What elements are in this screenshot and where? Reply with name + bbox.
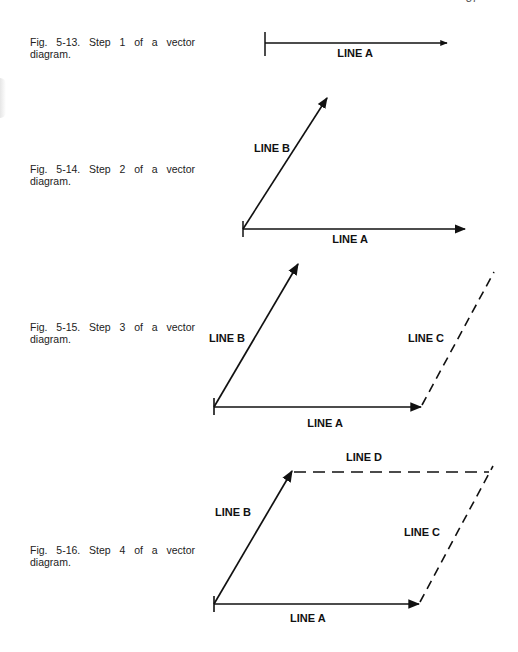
line-c-label: LINE C [404, 526, 440, 538]
line-a-label: LINE A [290, 612, 326, 624]
line-a-label: LINE A [307, 417, 343, 429]
diagram-fig-5-15: LINE B LINE C LINE A [209, 264, 494, 429]
line-b-label: LINE B [215, 506, 251, 518]
vector-diagrams: LINE A LINE B LINE A LINE B LINE C LINE … [0, 0, 518, 652]
diagram-fig-5-16: LINE D LINE B LINE C LINE A [214, 451, 493, 624]
line-b-label: LINE B [254, 142, 290, 154]
line-b-label: LINE B [209, 332, 245, 344]
diagram-fig-5-14: LINE B LINE A [243, 98, 465, 245]
line-b-vector [214, 471, 292, 604]
line-c-label: LINE C [408, 332, 444, 344]
diagram-fig-5-13: LINE A [265, 32, 447, 59]
line-a-label: LINE A [332, 233, 368, 245]
line-b-vector [243, 98, 327, 229]
line-a-label: LINE A [337, 47, 373, 59]
line-d-label: LINE D [346, 451, 382, 463]
